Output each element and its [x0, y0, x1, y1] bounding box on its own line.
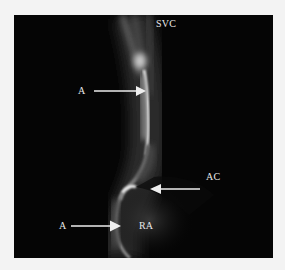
label-ra: RA	[139, 221, 153, 231]
ultrasound-image-panel: SVC A AC A RA	[14, 15, 273, 258]
label-ac: AC	[206, 172, 220, 182]
label-svc: SVC	[156, 19, 176, 29]
label-a-top: A	[78, 86, 85, 96]
label-a-bottom: A	[59, 221, 66, 231]
